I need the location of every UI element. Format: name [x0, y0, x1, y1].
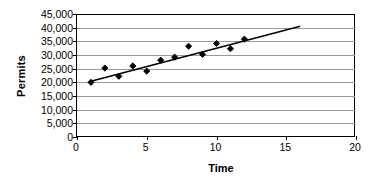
- data-point-marker: [130, 63, 136, 69]
- y-axis-tick-label: 10,000: [26, 105, 73, 115]
- data-series-overlay: [77, 14, 356, 137]
- data-point-marker: [213, 40, 219, 46]
- y-axis-tick-labels: 05,00010,00015,00020,00025,00030,00035,0…: [26, 0, 73, 185]
- data-point-marker: [227, 46, 233, 52]
- x-axis-title-label: Time: [208, 162, 233, 174]
- y-axis-tick-label: 45,000: [26, 9, 73, 19]
- data-point-marker: [186, 43, 192, 49]
- trendline: [91, 26, 300, 81]
- x-axis-tick-label: 10: [196, 141, 236, 153]
- y-axis-tick-label: 25,000: [26, 64, 73, 74]
- x-axis-tick-labels: 05101520: [0, 141, 380, 157]
- data-point-marker: [102, 65, 108, 71]
- x-axis-tick-label: 5: [126, 141, 166, 153]
- data-point-marker: [144, 68, 150, 74]
- y-axis-tick-label: 5,000: [26, 118, 73, 128]
- x-axis-title: Time: [0, 162, 380, 174]
- y-axis-tick-label: 35,000: [26, 36, 73, 46]
- y-axis-tick-label: 20,000: [26, 77, 73, 87]
- y-axis-tick-label: 40,000: [26, 23, 73, 33]
- x-axis-tick-label: 15: [265, 141, 305, 153]
- y-axis-tick-label: 15,000: [26, 91, 73, 101]
- permits-vs-time-scatter-chart: Permits 05,00010,00015,00020,00025,00030…: [0, 0, 380, 185]
- plot-area: [76, 14, 355, 137]
- x-axis-tick-label: 20: [335, 141, 375, 153]
- y-axis-tick-label: 30,000: [26, 50, 73, 60]
- x-axis-tick-mark: [356, 136, 357, 140]
- x-axis-tick-label: 0: [56, 141, 96, 153]
